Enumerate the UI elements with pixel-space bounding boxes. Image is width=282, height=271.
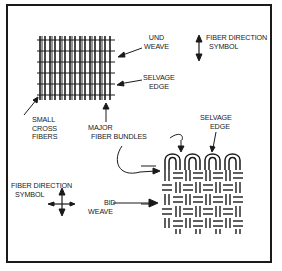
selvage-edge-label-top: SELVAGE EDGE xyxy=(143,74,175,91)
label-line: FIBERS xyxy=(32,133,57,142)
und-weave-illustration xyxy=(37,36,115,100)
bid-weave-label: BID WEAVE xyxy=(88,199,116,216)
label-line: SYMBOL xyxy=(11,191,72,200)
major-fiber-bundles-label: MAJOR FIBER BUNDLES xyxy=(88,124,147,141)
selvage-edge-label-bottom: SELVAGE EDGE xyxy=(200,114,232,131)
small-cross-fibers-label: SMALL CROSS FIBERS xyxy=(32,116,57,142)
fiber-direction-label-bottom: FIBER DIRECTION SYMBOL xyxy=(11,182,72,199)
label-line: WEAVE xyxy=(144,43,169,52)
label-line: EDGE xyxy=(143,83,175,92)
fiber-direction-vertical-icon xyxy=(196,35,202,61)
label-line: EDGE xyxy=(200,123,232,132)
bid-weave-illustration xyxy=(162,154,243,234)
label-line: WEAVE xyxy=(88,208,116,217)
label-line: FIBER BUNDLES xyxy=(88,133,147,142)
label-line: SYMBOL xyxy=(206,43,267,52)
und-weave-label: UND WEAVE xyxy=(144,34,169,51)
fiber-direction-label-top: FIBER DIRECTION SYMBOL xyxy=(206,34,267,51)
